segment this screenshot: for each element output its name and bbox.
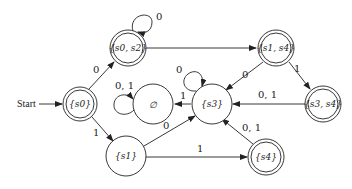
state-label: {s3, s4} — [304, 99, 342, 109]
start-arrow: Start — [17, 98, 62, 109]
edge-s0-s0s2: 0 — [89, 62, 114, 89]
state-label: {s1, s4} — [257, 43, 295, 53]
edge-label: 1 — [180, 90, 186, 101]
edge-s3-empty: 1 — [175, 90, 191, 104]
state-s1: {s1} — [106, 136, 146, 176]
edge-label: 0 — [242, 69, 248, 80]
edge-s3-loop: 0 — [176, 64, 203, 91]
edge-s1s4-s3: 0 — [226, 62, 263, 90]
state-label: {s0, s2} — [109, 43, 147, 53]
edge-label: 0, 1 — [242, 122, 261, 133]
state-s3s4: {s3, s4} — [304, 86, 342, 122]
state-label: {s0} — [69, 99, 91, 109]
state-s3: {s3} — [192, 84, 232, 124]
edge-label: 0, 1 — [258, 89, 277, 100]
state-s0: {s0} — [63, 87, 97, 121]
state-s1s4: {s1, s4} — [257, 30, 295, 66]
state-label: {s3} — [201, 99, 223, 109]
edge-s3s4-s3: 0, 1 — [233, 89, 305, 104]
edge-empty-loop: 0, 1 — [114, 80, 134, 114]
edge-label: 1 — [197, 143, 203, 154]
state-label: ∅ — [149, 100, 158, 110]
edge-s4-s3: 0, 1 — [222, 119, 261, 144]
edge-s1-s4: 1 — [146, 143, 247, 157]
state-label: {s1} — [115, 151, 137, 161]
dfa-diagram: Start 0 1 0 0 1 0, 1 0 1 — [0, 0, 352, 189]
edge-s0s2-loop: 0 — [132, 11, 162, 33]
edge-s0-s1: 1 — [92, 117, 113, 141]
state-s0s2: {s0, s2} — [109, 30, 147, 66]
edge-label: 1 — [93, 127, 99, 138]
edge-label: 0 — [163, 120, 169, 131]
edge-label: 0 — [93, 64, 99, 75]
state-s4: {s4} — [248, 139, 284, 175]
edge-label: 0 — [156, 11, 162, 22]
edge-label: 0 — [176, 64, 182, 75]
start-label: Start — [17, 98, 36, 109]
edge-s1s4-s3s4: 1 — [289, 62, 310, 89]
edge-label: 0, 1 — [115, 80, 134, 91]
edge-label: 1 — [294, 63, 300, 74]
state-label: {s4} — [255, 152, 277, 162]
state-empty: ∅ — [133, 84, 173, 124]
